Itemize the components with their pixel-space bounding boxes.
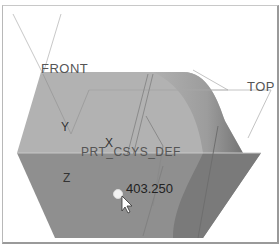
datum-label-top[interactable]: TOP xyxy=(247,79,275,94)
axis-label-z: Z xyxy=(63,171,70,185)
dimension-handle[interactable] xyxy=(114,190,123,199)
csys-label[interactable]: PRT_CSYS_DEF xyxy=(81,145,181,159)
datum-label-front[interactable]: FRONT xyxy=(41,61,88,76)
axis-label-x: X xyxy=(105,136,113,150)
model-graphics[interactable] xyxy=(3,6,277,242)
axis-label-y: Y xyxy=(61,120,69,134)
model-viewport[interactable]: FRONT TOP PRT_CSYS_DEF Y X Z 403.250 xyxy=(2,5,279,244)
dimension-value[interactable]: 403.250 xyxy=(126,181,173,196)
